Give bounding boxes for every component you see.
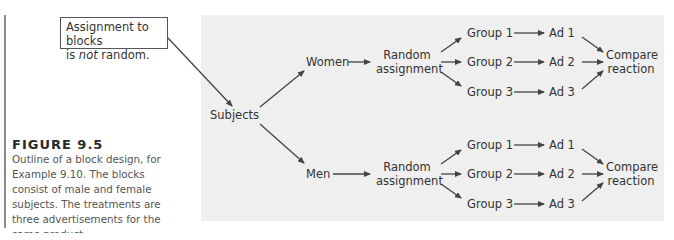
node-subjects: Subjects xyxy=(210,108,259,122)
node-men-group-1: Group 1 xyxy=(467,138,513,152)
node-women: Women xyxy=(306,55,349,69)
node-women-ad-1: Ad 1 xyxy=(549,26,575,40)
node-men-group-2: Group 2 xyxy=(467,167,513,181)
node-men-ad-3: Ad 3 xyxy=(549,197,575,211)
node-men: Men xyxy=(306,167,330,181)
node-men-group-3: Group 3 xyxy=(467,197,513,211)
node-women-ad-2: Ad 2 xyxy=(549,55,575,69)
node-women-random-assignment: Random assignment xyxy=(376,48,438,76)
node-women-group-2: Group 2 xyxy=(467,55,513,69)
node-men-compare-reaction: Compare reaction xyxy=(606,160,656,188)
node-men-ad-1: Ad 1 xyxy=(549,138,575,152)
node-men-random-assignment: Random assignment xyxy=(376,160,438,188)
node-women-group-1: Group 1 xyxy=(467,26,513,40)
node-women-compare-reaction: Compare reaction xyxy=(606,48,656,76)
node-men-ad-2: Ad 2 xyxy=(549,167,575,181)
node-women-group-3: Group 3 xyxy=(467,85,513,99)
node-women-ad-3: Ad 3 xyxy=(549,85,575,99)
